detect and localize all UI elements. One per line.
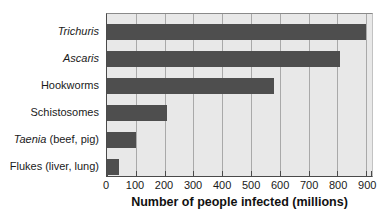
y-label-italic-part: Trichuris (58, 25, 99, 37)
y-label-regular-part: Schistosomes (31, 106, 99, 118)
x-tick-label: 900 (358, 179, 376, 191)
y-label-taenia: Taenia (beef, pig) (14, 132, 99, 147)
y-label-italic-part: Ascaris (63, 52, 99, 64)
y-axis-labels: Trichuris Ascaris Hookworms Schistosomes… (0, 13, 102, 177)
x-tick-label: 300 (184, 179, 202, 191)
bar-taenia (107, 132, 136, 148)
bar-schistosomes (107, 105, 167, 121)
bar-hookworms (107, 78, 274, 94)
y-label-italic-part: Taenia (14, 133, 47, 145)
y-label-regular-part: Hookworms (41, 79, 99, 91)
x-tick-label: 100 (126, 179, 144, 191)
x-tick-label: 0 (103, 179, 109, 191)
x-tick-label: 400 (213, 179, 231, 191)
x-axis-title: Number of people infected (millions) (106, 195, 373, 209)
x-tick-label: 200 (155, 179, 173, 191)
x-axis-tick-labels: 0100200300400500600700800900 (106, 179, 373, 193)
y-label-flukes: Flukes (liver, lung) (10, 159, 99, 174)
y-label-regular-part: (beef, pig) (46, 133, 99, 145)
bar-flukes (107, 159, 119, 175)
bar-chart-figure: Trichuris Ascaris Hookworms Schistosomes… (0, 0, 387, 218)
y-label-trichuris: Trichuris (58, 24, 99, 39)
x-tick-label: 700 (300, 179, 318, 191)
y-label-hookworms: Hookworms (41, 78, 99, 93)
bar-trichuris (107, 24, 366, 40)
x-tick-label: 800 (329, 179, 347, 191)
bars-layer (107, 14, 372, 176)
plot-area (106, 13, 373, 177)
y-label-ascaris: Ascaris (63, 51, 99, 66)
y-label-schistosomes: Schistosomes (31, 105, 99, 120)
x-tick-label: 600 (271, 179, 289, 191)
y-label-regular-part: Flukes (liver, lung) (10, 160, 99, 172)
bar-ascaris (107, 51, 340, 67)
x-tick-label: 500 (242, 179, 260, 191)
